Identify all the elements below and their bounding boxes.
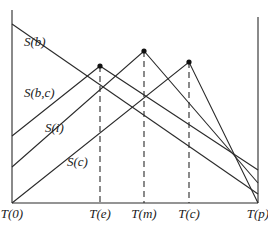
peak-dot-icon: [141, 48, 146, 53]
curve-label: S(b,c): [24, 85, 55, 100]
curve-sb: [12, 24, 258, 194]
curve-label: S(b): [24, 34, 46, 49]
x-tick-label: T(m): [131, 206, 156, 221]
curve-sbc: [12, 66, 258, 170]
peak-dot-icon: [186, 59, 191, 64]
ordering-time-diagram: S(b)S(b,c)S(i)S(c) T(0)T(e)T(m)T(c)T(p): [0, 0, 268, 229]
peak-dot-icon: [97, 63, 102, 68]
cost-curves: [12, 24, 258, 203]
curve-si: [12, 51, 258, 183]
curve-label: S(c): [67, 154, 88, 169]
x-tick-label: T(c): [178, 206, 200, 221]
x-tick-label: T(p): [247, 206, 268, 221]
x-tick-label: T(e): [89, 206, 111, 221]
x-axis-labels: T(0)T(e)T(m)T(c)T(p): [1, 206, 268, 221]
vertical-dashed-guides: [100, 51, 189, 203]
curve-label: S(i): [45, 120, 64, 135]
x-tick-label: T(0): [1, 206, 23, 221]
